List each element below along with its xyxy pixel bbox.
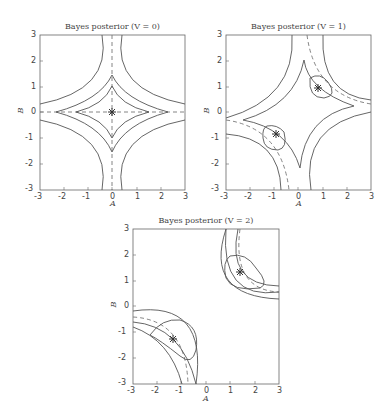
contour-plot xyxy=(0,0,390,417)
x-tick: 2 xyxy=(253,386,258,395)
y-tick: -2 xyxy=(118,353,126,362)
y-tick: -1 xyxy=(118,327,126,336)
y-tick: 3 xyxy=(124,224,129,233)
x-axis-label: A xyxy=(203,394,209,403)
x-tick: -1 xyxy=(175,386,183,395)
y-tick: -3 xyxy=(118,378,126,387)
x-tick: 1 xyxy=(228,386,233,395)
x-tick: -3 xyxy=(127,386,135,395)
x-tick: -2 xyxy=(151,386,159,395)
x-tick: 3 xyxy=(277,386,282,395)
y-axis-label: B xyxy=(109,302,118,308)
plot-panel-v2: Bayes posterior (V = 2) xyxy=(0,0,390,417)
y-tick: 1 xyxy=(124,276,129,285)
y-tick: 0 xyxy=(124,301,129,310)
y-tick: 2 xyxy=(124,250,129,259)
